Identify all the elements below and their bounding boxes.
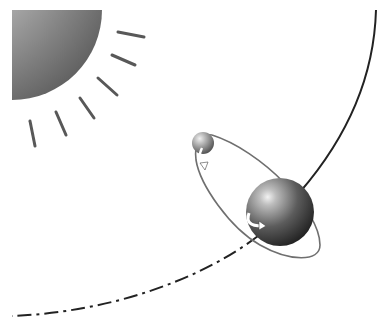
orbit-diagram: Sun, Earth and Moon orbital illustration (0, 0, 389, 330)
diagram-canvas (0, 0, 389, 330)
sun-icon (0, 0, 144, 146)
earth-orbit-solid (300, 10, 376, 192)
earth-sphere-icon (246, 178, 314, 246)
earth-orbit-dashed (12, 236, 258, 316)
